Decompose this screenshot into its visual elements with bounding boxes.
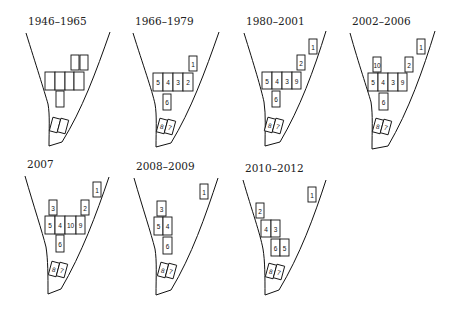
fuse-box: 3: [173, 73, 183, 91]
fuse-box-label: 6: [165, 99, 169, 106]
fuse-box: 1: [308, 187, 316, 202]
fuse-box-label: 5: [371, 79, 375, 86]
panel: 1966–197915432687: [133, 15, 219, 147]
fuse-box-label: 5: [283, 245, 287, 252]
fuse-box: [55, 72, 65, 90]
panel: 2008–20091354687: [134, 160, 218, 295]
fuse-box: 9: [76, 216, 85, 234]
fuse-box-label: 6: [58, 241, 62, 248]
fuse-box-label: 5: [156, 79, 160, 86]
fuse-box: 4: [55, 216, 65, 234]
panel: 1946–1965: [26, 15, 110, 146]
fuse-box: 3: [282, 72, 292, 89]
fuse-box: 6: [271, 239, 280, 256]
fuse-box: 3: [388, 73, 398, 91]
fuse-box-label: 1: [311, 44, 315, 51]
fuse-box: 3: [157, 201, 166, 216]
fuse-box-label: 2: [407, 62, 411, 69]
fuse-box-rect: [65, 72, 74, 90]
fuse-box-label: 6: [274, 96, 278, 103]
fuse-box: [80, 55, 88, 70]
fuse-box: 10: [373, 57, 381, 72]
fuse-box: 4: [261, 220, 271, 237]
fuse-box-label: 5: [48, 222, 52, 229]
fuse-box-label: 4: [275, 78, 279, 85]
fuse-box-label: 3: [51, 205, 55, 212]
panel: 2002–200611025439687: [350, 15, 435, 149]
fuse-box: 1: [309, 39, 317, 54]
fuse-box-label: 1: [310, 192, 314, 199]
fuse-box-label: 6: [274, 245, 278, 252]
fuse-box-label: 4: [58, 222, 62, 229]
fuse-box: 5: [154, 217, 163, 235]
fuse-box: [74, 72, 84, 90]
fuse-box-rect: [74, 72, 84, 90]
fuse-box: 3: [49, 200, 57, 215]
fuse-box: 6: [163, 94, 171, 110]
fuse-box-rect: [56, 91, 64, 107]
fuse-box-label: 2: [258, 208, 262, 215]
fuse-box: 5: [45, 216, 55, 234]
fuse-box-label: 1: [419, 44, 423, 51]
fuse-box: [65, 72, 74, 90]
fuse-box: 1: [93, 182, 101, 197]
fuse-box-label: 1: [95, 187, 99, 194]
fuse-box-label: 6: [166, 243, 170, 250]
fuse-box-label: 4: [264, 226, 268, 233]
fuse-box: 2: [81, 200, 89, 215]
fuse-box-rect: [71, 55, 79, 70]
fuse-box: 3: [271, 220, 280, 237]
fuse-box-label: 9: [401, 79, 405, 86]
fuse-box-label: 4: [381, 79, 385, 86]
fuse-box: 1: [200, 184, 208, 199]
fuse-box-label: 3: [391, 79, 395, 86]
fuse-box: 2: [405, 57, 413, 72]
fuse-box: 4: [378, 73, 388, 91]
fuse-box: 4: [272, 72, 282, 89]
fuse-box-label: 1: [191, 61, 195, 68]
fuse-box-rect: [45, 72, 55, 90]
fuse-box: [71, 55, 79, 70]
fuse-box-label: 5: [157, 223, 161, 230]
fuse-box: [56, 91, 64, 107]
fuse-box-rect: [80, 55, 88, 70]
fuse-box: 2: [297, 55, 305, 70]
fuse-box-label: 3: [285, 78, 289, 85]
fuse-box-label: 2: [186, 79, 190, 86]
fuse-box: 9: [292, 72, 301, 89]
fuse-box-label: 4: [166, 223, 170, 230]
fuse-box: 1: [189, 56, 197, 71]
fuse-box-rect: [55, 72, 65, 90]
fuse-box-label: 2: [83, 205, 87, 212]
fuse-box-label: 3: [274, 226, 278, 233]
fuse-box-label: 4: [166, 79, 170, 86]
panel-title: 2007: [27, 158, 54, 170]
fuse-box: 5: [368, 73, 378, 91]
fuse-layout-figure: 1946–19651966–1979154326871980–200112543…: [0, 0, 460, 314]
fuse-box: 9: [398, 73, 407, 91]
outline-left-edge: [25, 176, 48, 294]
fuse-box: 6: [379, 93, 388, 110]
fuse-box: 5: [153, 73, 163, 91]
fuse-box: 5: [280, 239, 289, 256]
fuse-box: 2: [256, 203, 264, 218]
fuse-box: 6: [56, 235, 64, 252]
fuse-box-label: 3: [160, 206, 164, 213]
fuse-box: 4: [163, 217, 172, 235]
panel-title: 1980–2001: [246, 15, 305, 27]
outline-left-edge: [243, 180, 265, 295]
fuse-box: 6: [272, 91, 280, 107]
outline-left-edge: [134, 178, 156, 295]
panel-title: 1966–1979: [135, 15, 194, 27]
fuse-box-label: 10: [373, 62, 381, 69]
fuse-box: 1: [417, 39, 425, 54]
fuse-box-label: 1: [202, 189, 206, 196]
fuse-box-label: 2: [299, 60, 303, 67]
fuse-box: 10: [65, 216, 76, 234]
fuse-box: 2: [183, 73, 193, 91]
fuse-box-label: 9: [79, 222, 83, 229]
panel-title: 2008–2009: [136, 160, 195, 172]
fuse-box: 5: [262, 72, 272, 89]
panel-title: 1946–1965: [28, 15, 87, 27]
fuse-box-label: 9: [295, 78, 299, 85]
